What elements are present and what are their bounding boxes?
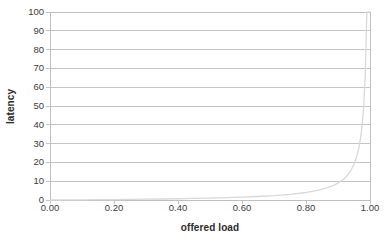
latency-vs-offered-load-chart: 0102030405060708090100 0.000.200.400.600… [0,0,387,243]
x-tick-label: 0.00 [41,203,60,213]
x-tick-label: 0.60 [233,203,252,213]
x-axis-tick-labels: 0.000.200.400.600.801.00 [0,0,387,243]
x-axis-title: offered load [50,222,370,233]
x-tick-label: 1.00 [361,203,380,213]
x-tick-label: 0.80 [297,203,316,213]
x-tick-label: 0.40 [169,203,188,213]
x-tick-label: 0.20 [105,203,124,213]
